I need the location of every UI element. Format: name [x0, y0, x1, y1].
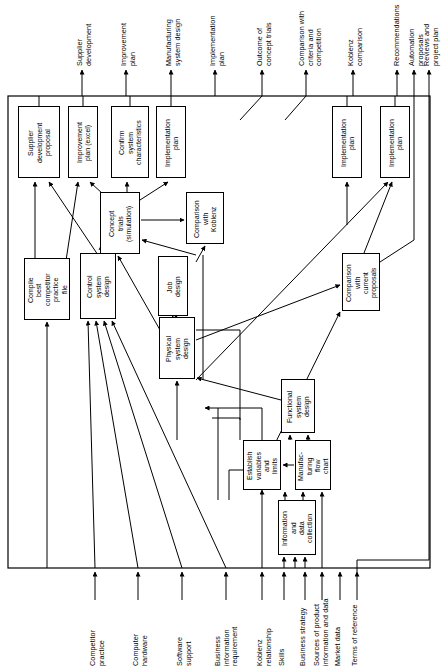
node-label: Physical system design	[160, 318, 196, 380]
bottom-label-koblenz-relationship: Koblenz relationship	[256, 604, 273, 666]
node-information-and-data-collection[interactable]: Information and data collection	[278, 500, 316, 555]
bottom-label-computer-hardware: Computer hardware	[132, 604, 149, 666]
node-label: Concept trials (simulation)	[101, 193, 141, 255]
node-concept-trials-simulation[interactable]: Concept trials (simulation)	[100, 192, 140, 254]
node-label: Functional system design	[282, 380, 316, 434]
node-manufacturing-flow-chart[interactable]: Manufac- turing flow chart	[295, 440, 331, 490]
bottom-label-terms-of-reference: Terms of reference	[351, 604, 360, 666]
diagram-root: Supplier development Improvement plan Ma…	[0, 0, 443, 670]
top-label-outcome-concept-trials: Outcome of concept trials	[256, 4, 273, 66]
bottom-label-market-data: Market data	[334, 604, 343, 666]
top-label-comparison-criteria: Comparison with criteria and competition	[298, 4, 324, 66]
node-comparison-with-current-proposals[interactable]: Comparison with current proposals	[342, 253, 380, 311]
node-comparison-with-koblenz[interactable]: Comparison with Koblenz	[186, 192, 224, 244]
bottom-input-arrows	[95, 572, 357, 600]
top-label-reviews-project-plan: Reviews and project plan	[423, 4, 440, 66]
node-confirm-system-characteristics[interactable]: Confirm system characteristics	[111, 106, 149, 178]
top-label-implementation-plan: Implementation plan	[209, 4, 226, 66]
node-label: Supplier development proposal	[19, 107, 61, 179]
diagram-canvas	[0, 0, 443, 670]
node-compile-best-competitor-practice-file[interactable]: Compile best competitor practice file	[24, 258, 70, 320]
bottom-label-skills: Skills	[278, 604, 287, 666]
node-implementation-plan-mid[interactable]: Implementation plan	[332, 106, 362, 178]
node-label: Implementation plan	[333, 107, 363, 179]
node-label: Improvement plan (excel)	[69, 107, 99, 179]
bottom-label-sources-product-information: Sources of product information and data	[313, 604, 330, 666]
node-label: Information and data collection	[279, 501, 317, 556]
top-label-supplier-development: Supplier development	[76, 4, 93, 66]
node-improvement-plan-excel[interactable]: Improvement plan (excel)	[68, 106, 98, 178]
top-label-improvement-plan: Improvement plan	[120, 4, 137, 66]
top-label-koblenz-comparison: Koblenz comparison	[347, 4, 364, 66]
bottom-label-competitor-practice: Competitor practice	[89, 604, 106, 666]
node-implementation-plan-right[interactable]: Implementation plan	[380, 106, 410, 178]
node-label: Compile best competitor practice file	[25, 259, 71, 321]
node-job-design[interactable]: Job design	[158, 256, 188, 316]
node-establish-variables-and-limits[interactable]: Establish variables and limits	[243, 440, 281, 490]
top-output-arrows	[82, 70, 429, 96]
node-label: Confirm system characteristics	[112, 107, 150, 179]
node-label: Implementation plan	[381, 107, 411, 179]
bottom-label-business-strategy: Business strategy	[299, 604, 308, 666]
node-physical-system-design[interactable]: Physical system design	[159, 317, 195, 379]
node-label: Establish variables and limits	[244, 441, 282, 491]
node-functional-system-design[interactable]: Functional system design	[281, 379, 315, 433]
node-label: Job design	[159, 257, 189, 317]
node-label: Manufac- turing flow chart	[296, 441, 332, 491]
bottom-label-business-information-requirement: Business information requirement	[214, 604, 240, 666]
node-label: Comparison with Koblenz	[187, 193, 225, 245]
node-label: Control system design	[81, 254, 117, 320]
bottom-label-software-support: Software support	[176, 604, 193, 666]
node-control-system-design[interactable]: Control system design	[80, 253, 116, 319]
node-label: Comparison with current proposals	[343, 254, 381, 312]
top-label-manufacturing-system-design: Manufacturing system design	[165, 4, 182, 66]
node-label: Implementation plan	[157, 107, 187, 179]
top-label-recommendations: Recommendations	[393, 4, 402, 66]
node-implementation-plan-left[interactable]: Implementation plan	[156, 106, 186, 178]
node-supplier-development-proposal[interactable]: Supplier development proposal	[18, 106, 60, 178]
